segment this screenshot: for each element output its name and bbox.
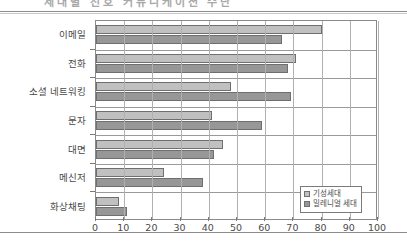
x-axis-tick — [349, 217, 350, 221]
legend-item: 기성세대 — [304, 189, 357, 199]
bar-group — [96, 135, 376, 164]
y-axis-tick-label: 대면 — [68, 142, 86, 156]
gridline — [265, 21, 266, 219]
y-axis-tick — [90, 49, 95, 50]
gridline — [237, 21, 238, 219]
bar — [96, 111, 212, 120]
x-axis-tick — [236, 217, 237, 221]
bar-group — [96, 78, 376, 107]
x-axis-tick-label: 80 — [315, 222, 327, 233]
gridline — [152, 21, 153, 219]
x-axis-tick-label: 40 — [202, 222, 214, 233]
x-axis-tick — [292, 217, 293, 221]
bar — [96, 197, 119, 206]
bar-group — [96, 50, 376, 79]
x-axis-tick — [180, 217, 181, 221]
category-separator — [96, 107, 376, 108]
y-axis-tick-label: 전화 — [68, 56, 86, 70]
category-separator — [96, 78, 376, 79]
page-rule-top — [0, 11, 407, 12]
gridline — [124, 21, 125, 219]
bar — [96, 82, 231, 91]
category-separator — [96, 164, 376, 165]
x-axis-labels: 0102030405060708090100 — [95, 222, 377, 236]
cropped-title-band: 세대별 선호 커뮤니케이션 수단 — [0, 0, 407, 11]
x-axis-tick-label: 90 — [343, 222, 355, 233]
bar — [96, 168, 164, 177]
bar — [96, 207, 127, 216]
y-axis-tick-label: 메신저 — [59, 170, 86, 184]
x-axis-tick — [377, 217, 378, 221]
x-axis-tick-label: 50 — [230, 222, 242, 233]
x-axis-tick — [321, 217, 322, 221]
bar — [96, 140, 223, 149]
bar-group — [96, 21, 376, 50]
x-axis-tick — [264, 217, 265, 221]
y-axis-tick — [90, 191, 95, 192]
x-axis-tick-label: 20 — [145, 222, 157, 233]
x-axis-tick-label: 60 — [258, 222, 270, 233]
x-axis-tick — [208, 217, 209, 221]
bar-group — [96, 107, 376, 136]
legend-label: 기성세대 — [313, 189, 341, 199]
x-axis-tick-label: 0 — [92, 222, 98, 233]
page-title: 세대별 선호 커뮤니케이션 수단 — [44, 0, 234, 9]
y-axis-tick-label: 화상채팅 — [50, 199, 86, 213]
x-axis-tick-label: 10 — [117, 222, 129, 233]
legend-swatch — [304, 191, 310, 197]
x-axis-tick — [95, 217, 96, 221]
x-axis-tick — [151, 217, 152, 221]
y-axis-tick — [90, 106, 95, 107]
gridline — [378, 21, 379, 219]
y-axis-tick-label: 문자 — [68, 113, 86, 127]
chart-legend: 기성세대밀레니얼 세대 — [300, 186, 362, 213]
y-axis-tick-label: 소셜 네트워킹 — [29, 84, 86, 98]
legend-item: 밀레니얼 세대 — [304, 199, 357, 209]
x-axis-tick-label: 70 — [286, 222, 298, 233]
bar-chart: 이메일전화소셜 네트워킹문자대면메신저화상채팅 0102030405060708… — [0, 14, 407, 232]
y-axis-tick — [90, 134, 95, 135]
legend-swatch — [304, 201, 310, 207]
x-axis-tick-label: 30 — [174, 222, 186, 233]
bar — [96, 150, 214, 159]
y-axis-tick-label: 이메일 — [59, 27, 86, 41]
gridline — [293, 21, 294, 219]
legend-label: 밀레니얼 세대 — [313, 199, 357, 209]
bar — [96, 178, 203, 187]
gridline — [181, 21, 182, 219]
y-axis-tick — [90, 77, 95, 78]
y-axis-tick — [90, 163, 95, 164]
category-separator — [96, 135, 376, 136]
x-axis-tick-label: 100 — [368, 222, 386, 233]
y-axis-labels: 이메일전화소셜 네트워킹문자대면메신저화상채팅 — [0, 20, 92, 220]
category-separator — [96, 50, 376, 51]
gridline — [209, 21, 210, 219]
x-axis-tick — [123, 217, 124, 221]
